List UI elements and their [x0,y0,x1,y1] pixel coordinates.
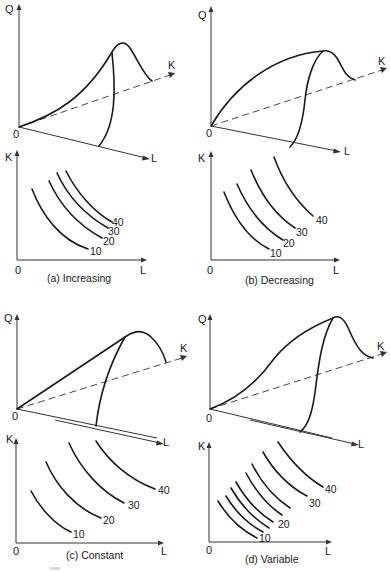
l-label: L [151,153,157,164]
l-label: L [325,546,331,557]
k-label: K [5,152,12,163]
l-axis-3d [55,420,160,443]
k-axis-3d-dashed [210,354,382,409]
q-axis-arrow-icon [17,4,22,10]
panel-b-decreasing: Q K 0 L K 0 L 10 20 30 40 (b) Decreasing [195,0,390,285]
isoquant-10 [32,189,88,249]
k-axis-3d-dashed [19,75,170,127]
isoquant-label-20: 20 [283,238,295,249]
isoquant-30 [69,443,124,503]
isoquant-label-40: 40 [316,215,328,226]
isoquant-label-10: 10 [73,529,85,540]
l-axis-arrow-icon [142,156,150,161]
output-curve-l [96,337,125,426]
isoquant-label-40: 40 [325,484,337,495]
k-axis-arrow-icon [15,150,20,156]
isoquant-label-40: 40 [158,485,170,496]
isoquant-40 [274,157,313,216]
output-curve-k [19,43,152,127]
isoquant-10 [31,491,71,532]
l-label: L [358,439,364,450]
isoquant-unlabeled-1 [226,496,263,532]
panel-caption: (c) Constant [66,549,123,561]
k-label: K [378,56,385,67]
l-axis-arrow-icon [333,149,341,154]
k-axis-arrow-icon [380,67,387,73]
q-axis-arrow-icon [209,6,214,12]
k-axis-arrow-icon [168,72,175,78]
q-label: Q [5,4,14,15]
isoquant-label-30: 30 [128,500,140,511]
l-label: L [333,265,339,276]
isoquant-label-30: 30 [296,227,308,238]
k-axis-arrow-icon [207,442,212,448]
l-axis-arrow-icon [326,540,332,545]
q-axis-arrow-icon [15,314,20,320]
isoquant-label-10: 10 [270,248,282,259]
l-axis-arrow-icon [141,258,147,263]
isoquant-label-30: 30 [309,498,321,509]
q-axis-arrow-icon [208,314,213,320]
origin-label: 0 [206,128,212,139]
origin-label: 0 [13,129,19,140]
panel-c-isoquants: K L 10 20 30 40 0 L (c) Constant [0,420,195,571]
scan-artifact [50,567,60,570]
q-label: Q [4,313,13,324]
k-label: K [180,343,187,354]
l-axis-arrow-icon [334,258,340,263]
panel-caption: (d) Variable [245,553,299,565]
l-axis-3d [250,420,355,444]
isoquant-label-10: 10 [90,246,102,257]
panel-d-isoquants: K L 10 20 30 40 0 L (d) Variable [195,420,390,571]
isoquant-label-40: 40 [112,217,124,228]
k-label: K [168,60,175,71]
q-label: Q [198,10,207,21]
k-axis-arrow-icon [14,438,19,444]
isoquant-label-20: 20 [103,236,115,247]
output-curve-k [210,317,373,409]
panel-a-increasing: Q K 0 L K 0 L 10 20 30 40 (a) Increasing [0,0,195,285]
k-label: K [377,341,384,352]
isoquant-unlabeled-4 [252,464,290,508]
isoquant-20 [246,473,282,515]
l-label: L [140,265,146,276]
l-label: L [163,437,169,448]
l-axis-3d [19,127,146,158]
l-axis-3d [211,126,337,151]
isoquant-30 [57,173,108,228]
k-axis-arrow-icon [209,151,214,157]
l-label: L [344,146,350,157]
isoquant-label-20: 20 [103,515,115,526]
k-label: K [198,153,205,164]
isoquant-label-20: 20 [278,519,290,530]
output-curve-l [99,53,114,146]
k-label: K [6,434,13,445]
output-curve-k [211,51,355,126]
isoquant-label-10: 10 [259,533,271,544]
isoquant-10 [218,501,257,538]
isoquant-40 [96,441,155,489]
output-curve-l [290,51,323,147]
isoquant-unlabeled-2 [231,488,269,528]
panel-caption: (b) Decreasing [245,274,314,286]
q-label: Q [198,314,207,325]
panel-caption: (a) Increasing [47,272,111,284]
l-label: L [161,546,167,557]
k-axis-arrow-icon [180,355,187,361]
panel-a-graphics [0,0,195,285]
output-curve-l [300,318,333,432]
origin-label: 0 [207,265,213,276]
origin-label: 0 [15,265,21,276]
origin-label: 0 [206,545,212,556]
k-label: K [198,441,205,452]
isoquant-20 [46,462,101,518]
k-axis-3d-dashed [211,70,382,126]
origin-label: 0 [13,546,19,557]
isoquant-10 [224,192,269,249]
